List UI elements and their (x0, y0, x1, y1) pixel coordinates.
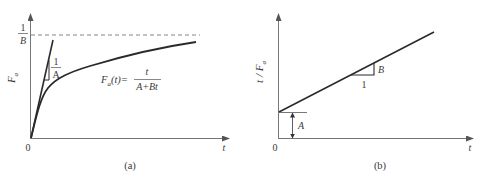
caption-a: (a) (124, 160, 136, 172)
origin-label-a: 0 (26, 142, 31, 153)
slope-numerator-a: 1 (54, 56, 59, 67)
svg-text:Fa: Fa (5, 72, 20, 84)
x-axis-label-b: t (469, 142, 472, 153)
intercept-label: A (297, 120, 305, 131)
y-axis-label-b: t / Fa (253, 61, 268, 83)
asymptote-numerator: 1 (21, 22, 26, 33)
y-axis-label-a: Fa (5, 72, 20, 84)
slope-denominator-a: A (52, 69, 60, 80)
asymptote-denominator: B (20, 35, 26, 46)
formula-a: Fa(t)= t A+Bt (100, 66, 161, 92)
formula-denominator: A+Bt (135, 81, 158, 92)
caption-b: (b) (374, 160, 387, 172)
panel-b: B 1 A t / Fa 0 t (b) (253, 14, 473, 172)
linear-line (279, 32, 434, 112)
x-axis-label-a: t (223, 142, 226, 153)
panel-a: 1 B 1 A Fa Fa(t)= t A+Bt 0 t (a) (5, 14, 229, 172)
slope-rise-label: B (378, 64, 384, 75)
slope-run-label: 1 (362, 79, 367, 90)
figure: 1 B 1 A Fa Fa(t)= t A+Bt 0 t (a) (0, 0, 482, 180)
svg-text:t / Fa: t / Fa (253, 61, 268, 83)
origin-label-b: 0 (273, 142, 278, 153)
svg-text:Fa(t)=: Fa(t)= (100, 74, 128, 88)
formula-numerator: t (146, 66, 149, 77)
